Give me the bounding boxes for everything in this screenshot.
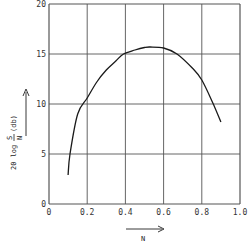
y-tick-label: 0 bbox=[41, 200, 46, 209]
y-arrow-icon bbox=[23, 89, 29, 136]
x-arrow-icon bbox=[126, 226, 164, 232]
y-label-frac-den: N bbox=[16, 136, 24, 140]
chart: 00.20.40.60.81.005101520 20 log S N (db)… bbox=[0, 0, 249, 243]
x-tick-label: 0.6 bbox=[156, 208, 171, 217]
data-curve bbox=[68, 47, 221, 175]
grid bbox=[49, 4, 240, 204]
x-axis-label: N bbox=[141, 235, 145, 243]
y-tick-label: 5 bbox=[41, 150, 46, 159]
x-tick-label: 0 bbox=[47, 208, 52, 217]
x-tick-label: 1.0 bbox=[233, 208, 248, 217]
x-tick-label: 0.8 bbox=[195, 208, 210, 217]
y-label-unit: (db) bbox=[10, 115, 18, 132]
y-axis-label: 20 log S N (db) bbox=[6, 115, 24, 170]
y-label-main: 20 log bbox=[10, 145, 18, 170]
x-tick-label: 0.4 bbox=[118, 208, 133, 217]
x-tick-label: 0.2 bbox=[80, 208, 95, 217]
y-tick-label: 10 bbox=[36, 100, 46, 109]
y-tick-label: 15 bbox=[36, 50, 46, 59]
y-label-frac-num: S bbox=[6, 136, 14, 140]
y-tick-label: 20 bbox=[36, 0, 46, 9]
